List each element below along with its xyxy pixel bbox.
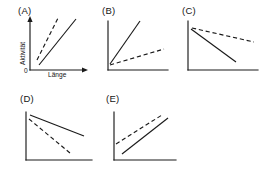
panel-d-plot <box>14 92 100 174</box>
panel-c-label: (C) <box>182 6 196 16</box>
panel-e-plot <box>100 92 186 174</box>
panel-e-dashed-line <box>116 115 162 144</box>
panel-c-dashed-line <box>192 28 254 42</box>
panel-d: (D) <box>14 92 100 174</box>
panel-a: (A) 0 Aktivität Länge <box>6 4 92 86</box>
panel-b-solid-line <box>110 21 140 64</box>
panel-a-x-axis-label: Länge <box>48 72 66 79</box>
panel-c-solid-line <box>191 29 236 62</box>
figure-panel-grid: (A) 0 Aktivität Länge (B) <box>0 0 266 179</box>
panel-e-label: (E) <box>106 94 120 104</box>
panel-a-x-arrow-icon <box>82 67 88 72</box>
panel-a-y-arrow-icon <box>27 16 32 22</box>
panel-d-dashed-line <box>29 119 70 153</box>
panel-a-y-axis-label: Aktivität <box>20 42 27 65</box>
panel-b-label: (B) <box>102 6 116 16</box>
panel-b: (B) <box>96 4 172 86</box>
panel-e: (E) <box>100 92 186 174</box>
panel-c-plot <box>176 4 262 86</box>
panel-b-plot <box>96 4 172 86</box>
panel-a-origin-label: 0 <box>24 68 28 75</box>
panel-c: (C) <box>176 4 262 86</box>
panel-a-solid-line <box>39 19 76 65</box>
panel-d-solid-line <box>30 115 84 136</box>
panel-a-label: (A) <box>18 6 32 16</box>
panel-d-label: (D) <box>20 94 34 104</box>
